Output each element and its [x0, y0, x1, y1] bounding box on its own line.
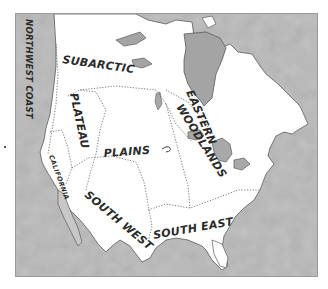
map-canvas: NORTHWEST COAST SUBARCTIC PLATEAU PLAINS… [16, 14, 318, 277]
stray-mark [4, 146, 6, 148]
label-northwest-coast: NORTHWEST COAST [24, 19, 34, 120]
culture-areas-map: NORTHWEST COAST SUBARCTIC PLATEAU PLAINS… [15, 13, 318, 277]
